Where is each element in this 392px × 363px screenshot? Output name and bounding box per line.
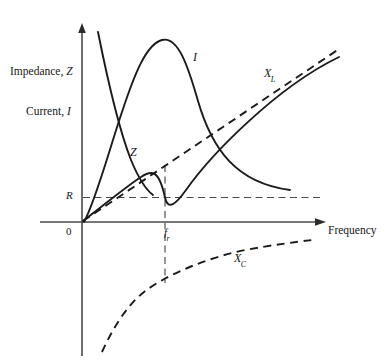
impedance-z-curve [83,57,339,221]
curve-label-current-i: I [193,51,197,63]
current-i-curve [84,40,290,222]
y-axis-label-current: Current, I [26,106,71,118]
y-axis-label-current-variable: I [67,105,71,117]
curve-label-inductive-reactance-xl: XL [264,67,276,82]
curve-label-capacitive-reactance-xc: XC [234,252,247,267]
xc-subscript: C [241,260,246,269]
y-axis-label-impedance-text: Impedance, [10,65,66,77]
x-axis-arrowhead [315,218,326,225]
capacitive-reactance-xc-curve [102,240,312,352]
y-axis-label-impedance-variable: Z [66,65,72,77]
y-axis-arrowhead [78,23,86,33]
figure-root: Impedance, Z Current, I R 0 fr Frequency… [0,0,392,363]
curve-label-impedance-z: Z [130,146,137,158]
xl-subscript: L [271,75,275,84]
origin-label: 0 [66,226,72,237]
resonant-frequency-label: fr [164,227,170,241]
resistance-tick-label: R [66,190,73,201]
y-axis-label-current-text: Current, [26,105,67,117]
x-axis-label-frequency: Frequency [328,225,377,237]
y-axis-label-impedance: Impedance, Z [10,66,73,78]
resonant-frequency-subscript: r [167,234,170,243]
